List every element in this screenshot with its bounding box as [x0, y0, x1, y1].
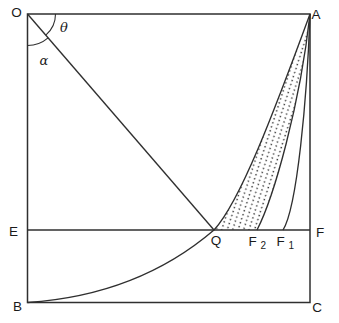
- canvas-background: [0, 0, 339, 323]
- label-F2-subscript: 2: [261, 240, 267, 251]
- label-theta: θ: [60, 20, 68, 35]
- label-F: F: [316, 225, 324, 240]
- label-Q: Q: [211, 233, 222, 248]
- label-B: B: [13, 299, 22, 314]
- label-C: C: [312, 300, 322, 315]
- label-A: A: [311, 7, 320, 22]
- label-alpha: α: [40, 53, 49, 68]
- label-F1-subscript: 1: [289, 240, 295, 251]
- geometry-figure: O A B C E F Q F 2 F 1 θ α: [0, 0, 339, 323]
- label-F2-base: F: [249, 234, 257, 249]
- label-F1-base: F: [277, 234, 285, 249]
- label-O: O: [11, 5, 22, 20]
- label-E: E: [9, 224, 18, 239]
- geometry-diagram-svg: O A B C E F Q F 2 F 1 θ α: [0, 0, 339, 323]
